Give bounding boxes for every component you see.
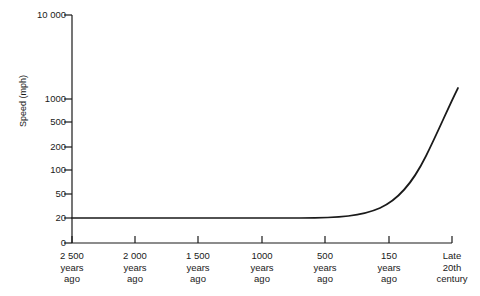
y-axis-ticks	[64, 15, 72, 243]
x-tick-line-3: century	[412, 273, 480, 285]
x-tick-label-late-20th-century: Late 20th century	[412, 250, 480, 285]
x-tick-line-1: Late	[412, 250, 480, 262]
speed-over-time-chart: Speed (mph) 10 000 1000 500 200 100 50 2…	[0, 0, 480, 296]
speed-curve	[72, 88, 458, 218]
x-axis-ticks	[72, 236, 452, 243]
x-tick-line-2: 20th	[412, 262, 480, 274]
